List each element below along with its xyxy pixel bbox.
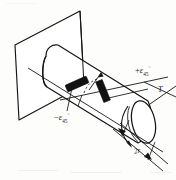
figure-line-art	[0, 0, 176, 180]
label-strain-positive-45: +ε45°	[135, 66, 150, 77]
strain-positive-subscript: 45	[143, 71, 148, 77]
diameter-symbol: 2r	[133, 145, 142, 155]
label-strain-negative-45: −ε45°	[54, 113, 69, 124]
label-torque: T	[158, 86, 162, 94]
strain-positive-degree: °	[148, 65, 150, 70]
torque-symbol: T	[158, 85, 162, 94]
strain-negative-subscript: 45	[62, 118, 67, 124]
torsion-shaft-figure: +ε45° −ε45° T 2r	[0, 0, 176, 180]
strain-negative-degree: °	[67, 112, 69, 117]
label-diameter: 2r	[133, 146, 141, 155]
